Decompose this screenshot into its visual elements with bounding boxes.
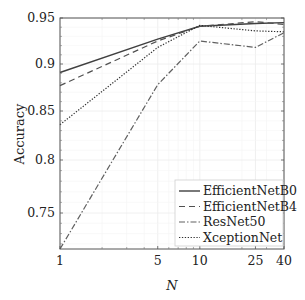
x-tick-label: 40: [276, 253, 292, 268]
chart: 151025400.750.80.850.90.95 N Accuracy Ef…: [0, 0, 305, 300]
y-tick-label: 0.85: [27, 103, 55, 118]
legend: EfficientNetB0EfficientNetB4ResNet50Xcep…: [175, 180, 297, 246]
series-efficientnetb0: [60, 23, 284, 73]
series-xceptionnet: [60, 25, 284, 124]
y-tick-label: 0.95: [27, 10, 55, 25]
y-tick-label: 0.8: [35, 152, 55, 167]
legend-label: EfficientNetB0: [203, 183, 297, 198]
x-tick-label: 25: [248, 253, 264, 268]
x-tick-label: 1: [56, 253, 64, 268]
y-tick-label: 0.9: [35, 56, 55, 71]
line-chart: 151025400.750.80.850.90.95 N Accuracy Ef…: [0, 0, 305, 300]
x-tick-label: 10: [192, 253, 208, 268]
x-axis-label: N: [165, 278, 178, 293]
x-tick-label: 5: [154, 253, 162, 268]
series-efficientnetb4: [60, 22, 284, 86]
legend-label: EfficientNetB4: [203, 199, 297, 214]
y-tick-label: 0.75: [27, 205, 55, 220]
legend-label: XceptionNet: [203, 230, 282, 245]
legend-label: ResNet50: [203, 214, 266, 229]
y-axis-label: Accuracy: [12, 103, 27, 166]
